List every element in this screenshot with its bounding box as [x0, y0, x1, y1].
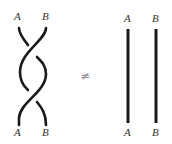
- strand-under-1b: [19, 57, 46, 125]
- label-top-b-left: B: [42, 10, 49, 22]
- label-bottom-b-right: B: [152, 126, 159, 138]
- not-equal-symbol: ≠: [80, 69, 90, 83]
- braid-inequality-diagram: A B A B ≠ A B A B: [0, 0, 172, 144]
- label-bottom-a-right: A: [123, 126, 131, 138]
- strand-under-2: [37, 102, 46, 125]
- label-top-a-right: A: [123, 12, 131, 24]
- strand-under-1a: [19, 28, 28, 45]
- label-top-a-left: A: [13, 10, 21, 22]
- label-bottom-a-left: A: [13, 126, 21, 138]
- parallel-strands: [128, 29, 156, 123]
- twisted-braid: [19, 28, 46, 125]
- label-bottom-b-left: B: [42, 126, 49, 138]
- label-top-b-right: B: [152, 12, 159, 24]
